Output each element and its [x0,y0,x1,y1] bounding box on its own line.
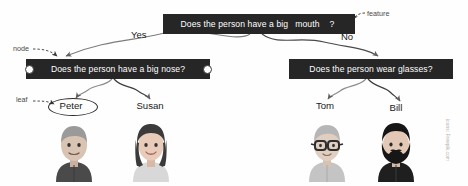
edge-root-to-right-node [262,34,378,56]
root-question-text: Does the person have a big [181,19,289,29]
watermark-credit: icons: Freepik.com [445,119,451,161]
decision-node-wear-glasses[interactable]: Does the person wear glasses? [289,59,453,79]
edge-right-node-to-tom [328,79,366,99]
edge-label-yes: Yes [131,29,147,40]
edge-right-node-to-bill [368,79,400,101]
decision-tree-diagram: Does the person have a big mouth ? Does … [0,0,468,186]
edge-left-node-to-susan [114,79,150,99]
edge-label-no: No [341,31,353,42]
left-node-question-text: Does the person have a big nose? [51,64,185,74]
avatar-susan [127,120,175,182]
edge-root-to-left-node [66,31,250,56]
annotation-label-leaf: leaf [16,95,28,104]
annotation-label-node: node [13,44,29,53]
leaf-label-peter: Peter [50,100,92,111]
leaf-label-tom: Tom [307,100,343,111]
avatar-tom [303,120,351,182]
decision-node-root[interactable]: Does the person have a big mouth ? [163,14,355,34]
right-node-question-text: Does the person wear glasses? [309,64,432,74]
leaf-label-bill: Bill [379,102,413,113]
annotation-label-feature: feature [367,9,389,18]
decision-node-big-nose[interactable]: Does the person have a big nose? [26,59,210,79]
root-feature-word: mouth [292,19,322,29]
leaf-label-susan: Susan [127,100,173,111]
annotation-leader-node [33,49,57,56]
edge-left-node-to-peter [76,79,112,98]
node-handle-left[interactable] [25,65,34,74]
node-handle-right[interactable] [203,65,212,74]
avatar-peter [50,120,98,182]
avatar-bill [372,120,420,182]
root-question-mark: ? [327,19,338,29]
